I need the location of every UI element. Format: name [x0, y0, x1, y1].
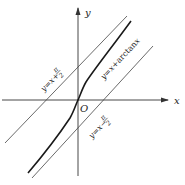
- svg-text:y=x+arctanx: y=x+arctanx: [98, 36, 142, 82]
- y-axis-label: y: [84, 7, 91, 18]
- origin-label: O: [80, 103, 88, 114]
- function-graph: y x O y=x+ π 2 y=x+arctanx y=x− π 2: [0, 0, 185, 185]
- curve-label: y=x+arctanx: [98, 36, 142, 82]
- arctan-curve: [28, 21, 131, 173]
- lower-asymptote-line: [32, 46, 153, 178]
- x-axis-label: x: [174, 95, 180, 106]
- upper-asymptote-label: y=x+ π 2: [35, 65, 66, 96]
